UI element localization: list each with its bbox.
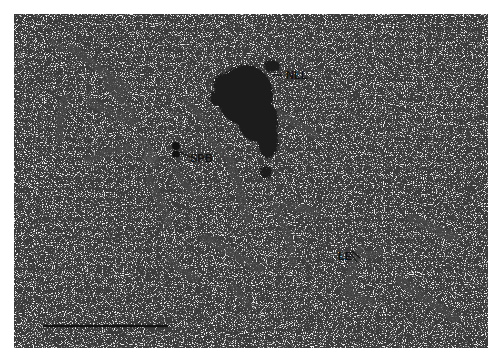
label-spb-text: SPB — [190, 152, 213, 164]
micrograph-figure: NLL SPB LE — [0, 0, 500, 360]
label-le-text: LE — [338, 250, 352, 262]
label-nll-text: NLL — [286, 69, 308, 81]
